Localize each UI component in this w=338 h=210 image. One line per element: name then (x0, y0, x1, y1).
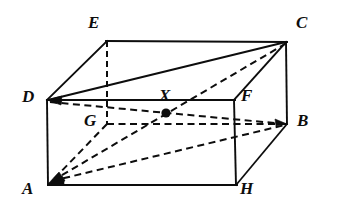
vertex-label-H: H (240, 180, 253, 197)
vertex-label-D: D (22, 88, 34, 105)
vertex-label-X: X (159, 87, 170, 104)
edge-E-D (47, 41, 107, 100)
point-X-dot (161, 108, 170, 117)
edge-A-B (52, 125, 285, 181)
marked-points-group (161, 108, 170, 117)
vertex-label-G: G (84, 112, 96, 129)
edge-E-C (106, 41, 287, 42)
edge-C-B (286, 42, 287, 124)
vertex-label-C: C (296, 14, 307, 31)
arrow-at-D-from-F (47, 99, 62, 105)
vertex-label-B: B (297, 112, 308, 129)
edge-G-A (52, 124, 107, 181)
vertex-label-A: A (22, 180, 33, 197)
edge-D-A (47, 100, 48, 185)
edge-F-H (234, 100, 236, 185)
cuboid-diagram-svg (0, 0, 338, 210)
edge-H-B (236, 124, 287, 185)
vertex-label-E: E (88, 14, 99, 31)
geometry-figure: E C D X F G B A H (0, 0, 338, 210)
vertex-label-F: F (241, 87, 252, 104)
